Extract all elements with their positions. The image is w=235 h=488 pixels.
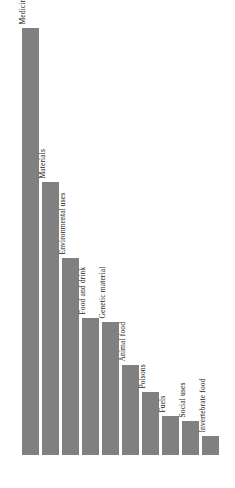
bar[interactable] xyxy=(142,392,159,455)
bar-chart: Medicines Materials Environmental uses F… xyxy=(0,0,235,488)
bar-label: Animal food xyxy=(119,322,127,362)
bar[interactable] xyxy=(202,436,219,455)
bar-label: Environmental uses xyxy=(59,193,67,255)
bar-group: Social uses xyxy=(182,421,199,455)
bar-label: Medicines xyxy=(19,0,27,25)
bar-label: Food and drink xyxy=(79,267,87,315)
bar-group: Animal food xyxy=(122,365,139,455)
bar-label: Genetic material xyxy=(99,267,107,319)
bar[interactable] xyxy=(62,258,79,455)
bar[interactable] xyxy=(22,28,39,455)
bar-group: Environmental uses xyxy=(62,258,79,455)
bar-label: Poisons xyxy=(139,365,147,389)
bar[interactable] xyxy=(162,416,179,455)
bar-label: Fuels xyxy=(159,396,167,413)
bar-group: Genetic material xyxy=(102,322,119,455)
bar[interactable] xyxy=(182,421,199,455)
bar[interactable] xyxy=(102,322,119,455)
bar-group: Invertebrate food xyxy=(202,436,219,455)
bar-label: Invertebrate food xyxy=(199,379,207,433)
bar[interactable] xyxy=(42,182,59,455)
bar-group: Poisons xyxy=(142,392,159,455)
plot-area: Medicines Materials Environmental uses F… xyxy=(0,0,235,488)
bar-group: Food and drink xyxy=(82,318,99,455)
bar[interactable] xyxy=(122,365,139,455)
bar-label: Materials xyxy=(39,149,47,179)
bar-label: Social uses xyxy=(179,383,187,418)
bar-group: Medicines xyxy=(22,28,39,455)
bar-group: Materials xyxy=(42,182,59,455)
bar[interactable] xyxy=(82,318,99,455)
bar-group: Fuels xyxy=(162,416,179,455)
